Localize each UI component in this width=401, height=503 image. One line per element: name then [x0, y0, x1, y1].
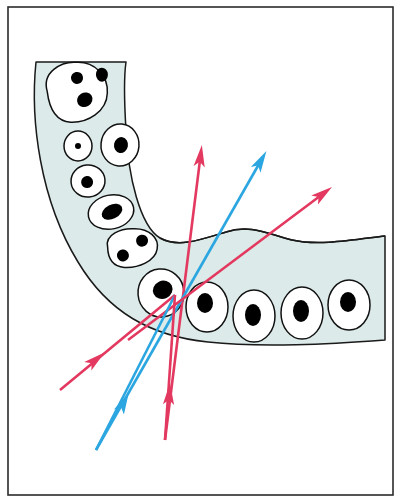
nucleus — [245, 304, 261, 326]
nucleus — [293, 300, 309, 322]
nucleus — [197, 293, 213, 313]
nucleus — [340, 292, 356, 312]
cell-bottom-3 — [281, 287, 323, 339]
cell-bottom-2 — [233, 290, 275, 342]
cell-bottom-1 — [186, 282, 228, 332]
figure-frame — [0, 0, 401, 503]
tissue-diagram — [0, 0, 401, 503]
nucleus — [75, 143, 81, 149]
cell-bottom-4 — [328, 280, 370, 330]
cell-small-left — [64, 131, 92, 161]
